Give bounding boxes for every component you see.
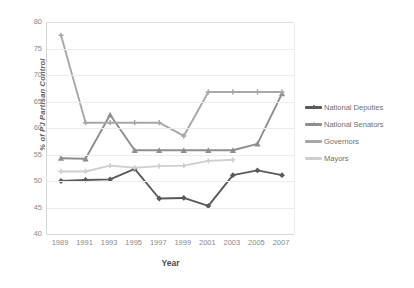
- gridline: [47, 128, 294, 129]
- gridline: [47, 181, 294, 182]
- data-point-marker: [255, 89, 260, 94]
- y-tick-label: 40: [20, 230, 42, 238]
- y-tick-label: 55: [20, 151, 42, 159]
- y-tick-label: 50: [20, 177, 42, 185]
- legend: National DeputiesNational SenatorsGovern…: [305, 99, 411, 167]
- data-point-marker: [181, 195, 187, 201]
- data-point-marker: [255, 168, 261, 174]
- legend-swatch-icon: [305, 120, 322, 129]
- data-point-marker: [230, 89, 235, 94]
- legend-swatch-icon: [305, 137, 322, 146]
- gridline: [47, 102, 294, 103]
- series-line: [61, 35, 282, 136]
- x-axis: 1989199119931995199719992001200320052007: [46, 238, 295, 250]
- legend-item-label: National Senators: [324, 120, 384, 129]
- y-axis: % of PJ Partisan Control 807570656055504…: [18, 22, 42, 234]
- data-point-marker: [108, 163, 113, 168]
- gridline: [47, 22, 294, 23]
- data-point-marker: [132, 120, 137, 125]
- legend-marker-icon: [311, 121, 317, 127]
- legend-swatch-icon: [305, 103, 322, 112]
- y-tick-label: 45: [20, 204, 42, 212]
- y-tick-label: 70: [20, 71, 42, 79]
- legend-item-national-senators[interactable]: National Senators: [305, 116, 411, 133]
- legend-item-national-deputies[interactable]: National Deputies: [305, 99, 411, 116]
- y-tick-label: 80: [20, 18, 42, 26]
- data-point-marker: [83, 120, 88, 125]
- line-chart: % of PJ Partisan Control 807570656055504…: [0, 0, 414, 288]
- data-point-marker: [230, 157, 235, 162]
- gridline: [47, 75, 294, 76]
- data-point-marker: [206, 158, 211, 163]
- legend-swatch-icon: [305, 154, 322, 163]
- data-point-marker: [58, 169, 63, 174]
- series-national-deputies: [58, 166, 285, 209]
- legend-marker-icon: [311, 104, 317, 110]
- data-point-marker: [279, 172, 285, 178]
- series-line: [61, 169, 282, 206]
- gridline: [47, 208, 294, 209]
- data-point-marker: [157, 164, 162, 169]
- gridline: [47, 155, 294, 156]
- legend-item-governors[interactable]: Governors: [305, 133, 411, 150]
- y-tick-label: 75: [20, 45, 42, 53]
- x-tick-label: 2007: [264, 238, 298, 247]
- data-point-marker: [58, 33, 63, 38]
- cut-off-title: [0, 0, 414, 9]
- x-axis-label: Year: [46, 258, 295, 268]
- y-tick-label: 65: [20, 98, 42, 106]
- legend-item-label: Mayors: [324, 154, 349, 163]
- data-point-marker: [279, 89, 284, 94]
- plot-area: [46, 22, 295, 234]
- legend-item-mayors[interactable]: Mayors: [305, 150, 411, 167]
- data-point-marker: [83, 169, 88, 174]
- series-line: [61, 94, 282, 159]
- data-point-marker: [181, 163, 186, 168]
- y-tick-label: 60: [20, 124, 42, 132]
- legend-item-label: National Deputies: [324, 103, 383, 112]
- gridline: [47, 49, 294, 50]
- gridline: [47, 234, 294, 235]
- data-point-marker: [108, 120, 113, 125]
- data-point-marker: [107, 112, 113, 118]
- legend-item-label: Governors: [324, 137, 359, 146]
